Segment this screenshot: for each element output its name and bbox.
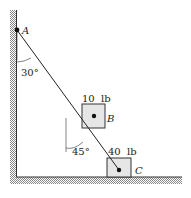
mechanics-diagram: A B C 10 lb 40 lb 30° 45° (0, 0, 191, 198)
label-a: A (21, 25, 29, 36)
angle-b-label: 45° (72, 146, 90, 157)
pin-a-icon (15, 28, 20, 33)
label-b: B (106, 113, 114, 124)
block-c (107, 158, 131, 177)
angle-a-label: 30° (21, 67, 39, 78)
label-c: C (135, 165, 143, 176)
weight-c: 40 lb (108, 146, 137, 157)
angle-arc-a (17, 58, 31, 62)
wall (10, 10, 16, 184)
pin-b-icon (92, 114, 96, 118)
pin-c-icon (117, 168, 121, 172)
weight-b: 10 lb (82, 93, 111, 104)
floor (10, 177, 182, 184)
